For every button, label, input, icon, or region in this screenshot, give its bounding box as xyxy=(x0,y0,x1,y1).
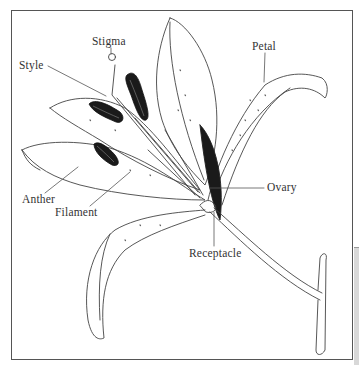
label-petal: Petal xyxy=(252,41,276,53)
petal-lower xyxy=(87,210,205,339)
label-anther: Anther xyxy=(22,194,55,206)
label-receptacle: Receptacle xyxy=(189,248,241,260)
label-stigma: Stigma xyxy=(92,36,126,48)
leader-anther xyxy=(45,167,78,193)
label-style: Style xyxy=(19,60,44,72)
leader-petal xyxy=(264,53,265,82)
label-filament: Filament xyxy=(55,207,98,219)
side-panel xyxy=(354,247,359,365)
leader-style xyxy=(48,66,106,96)
label-ovary: Ovary xyxy=(267,182,297,194)
